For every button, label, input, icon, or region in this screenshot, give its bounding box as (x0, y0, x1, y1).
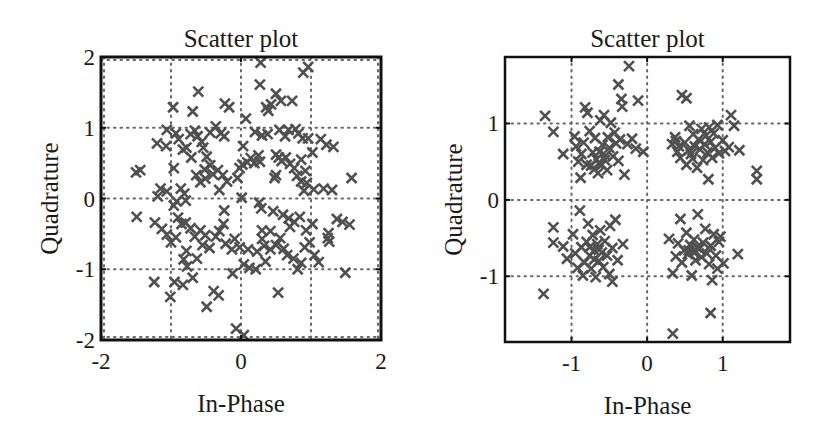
x-marker (668, 329, 678, 339)
x-marker (558, 241, 568, 251)
x-tick-label: 0 (641, 351, 653, 376)
y-axis-label: Quadrature (36, 142, 63, 254)
x-marker (307, 219, 317, 229)
x-marker (548, 127, 558, 137)
x-marker (171, 232, 181, 242)
x-marker (200, 230, 210, 240)
x-marker (613, 255, 623, 265)
x-marker (149, 277, 159, 287)
x-marker (303, 133, 313, 143)
x-marker (233, 173, 243, 183)
x-marker (610, 215, 620, 225)
chart-title: Scatter plot (184, 25, 299, 52)
x-marker (305, 237, 315, 247)
x-marker (548, 238, 558, 248)
x-marker (327, 185, 337, 195)
x-marker (188, 273, 198, 283)
x-marker (617, 102, 627, 112)
y-tick-label: 2 (84, 45, 96, 70)
scatter-plot-1: -202-2-1012Scatter plotIn-PhaseQuadratur… (36, 25, 387, 417)
x-marker (309, 184, 319, 194)
x-marker (562, 254, 572, 264)
x-marker (273, 288, 283, 298)
x-marker (214, 290, 224, 300)
x-marker (618, 239, 628, 249)
y-tick-label: 1 (84, 116, 96, 141)
x-marker (261, 256, 271, 266)
x-marker (734, 145, 744, 155)
x-marker (168, 102, 178, 112)
x-marker (576, 173, 586, 183)
x-marker (193, 87, 203, 97)
x-tick-label: 1 (717, 351, 729, 376)
x-marker (241, 114, 251, 124)
x-marker (677, 258, 687, 268)
x-marker (729, 121, 739, 131)
x-marker (243, 244, 253, 254)
x-marker (181, 246, 191, 256)
x-marker (347, 173, 357, 183)
x-marker (724, 142, 734, 152)
x-marker (224, 102, 234, 112)
x-marker (188, 106, 198, 116)
x-marker (219, 131, 229, 141)
x-axis-label: In-Phase (604, 392, 691, 419)
x-marker (256, 58, 266, 68)
x-marker (606, 118, 616, 128)
x-marker (613, 80, 623, 90)
x-marker (733, 249, 743, 259)
x-marker (181, 143, 191, 153)
x-marker (268, 206, 278, 216)
y-tick-label: 1 (488, 111, 500, 136)
x-marker (703, 174, 713, 184)
x-marker (664, 234, 674, 244)
x-marker (192, 254, 202, 264)
x-marker (675, 214, 685, 224)
x-marker (202, 302, 212, 312)
x-marker (186, 152, 196, 162)
x-marker (214, 185, 224, 195)
x-marker (205, 128, 215, 138)
x-marker (558, 149, 568, 159)
y-tick-label: -1 (76, 257, 95, 282)
x-marker (238, 141, 248, 151)
x-marker (295, 212, 305, 222)
x-marker (255, 80, 265, 90)
y-tick-label: 0 (84, 187, 96, 212)
x-marker (132, 212, 142, 222)
x-marker (170, 277, 180, 287)
x-marker (548, 222, 558, 232)
x-marker (539, 289, 549, 299)
x-tick-label: -1 (562, 351, 581, 376)
x-marker (583, 219, 593, 229)
x-marker (726, 110, 736, 120)
x-marker (619, 170, 629, 180)
x-tick-label: 0 (235, 349, 247, 374)
x-tick-label: 2 (375, 349, 387, 374)
x-marker (627, 134, 637, 144)
x-marker (152, 138, 162, 148)
x-marker (624, 61, 634, 71)
x-marker (568, 229, 578, 239)
x-marker (752, 174, 762, 184)
x-marker (287, 96, 297, 106)
chart-title: Scatter plot (590, 25, 705, 52)
x-marker (706, 308, 716, 318)
x-marker (668, 268, 678, 278)
figure: -202-2-1012Scatter plotIn-PhaseQuadratur… (0, 0, 824, 430)
x-marker (161, 141, 171, 151)
x-marker (296, 155, 306, 165)
x-marker (540, 111, 550, 121)
scatter-plot-2: -101-101Scatter plotIn-PhaseQuadrature (440, 25, 790, 419)
x-marker (613, 156, 623, 166)
x-marker (219, 206, 229, 216)
x-marker (633, 96, 643, 106)
x-axis-label: In-Phase (197, 390, 284, 417)
x-marker (681, 93, 691, 103)
x-marker (178, 280, 188, 290)
y-tick-label: -1 (480, 264, 499, 289)
x-marker (700, 224, 710, 234)
x-marker (693, 209, 703, 219)
y-tick-label: 0 (488, 188, 500, 213)
x-marker (575, 206, 585, 216)
